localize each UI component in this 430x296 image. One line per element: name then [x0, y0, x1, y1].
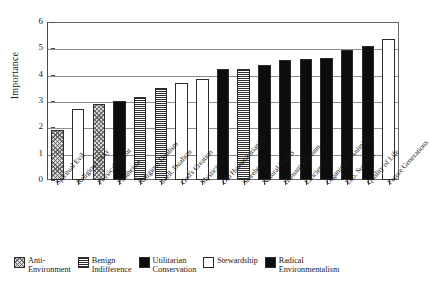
legend-swatch-icon: [78, 257, 89, 268]
legend-item[interactable]: Anti-Environment: [14, 256, 71, 275]
legend-swatch-icon: [203, 257, 214, 268]
y-axis-tick-label: 4: [13, 70, 43, 79]
y-axis-tick-label: 3: [13, 96, 43, 105]
legend-item[interactable]: Stewardship: [203, 256, 257, 268]
legend-label: Stewardship: [217, 256, 257, 265]
legend-label: Anti-Environment: [28, 256, 71, 275]
legend-item[interactable]: RadicalEnvironmentalism: [265, 256, 340, 275]
legend-label: BenignIndifference: [92, 256, 132, 275]
legend-label: RadicalEnvironmentalism: [279, 256, 340, 275]
legend-swatch-icon: [139, 257, 150, 268]
y-axis-tick-labels: 0123456: [9, 22, 43, 180]
y-axis-tick-label: 2: [13, 122, 43, 131]
y-axis-tick-label: 1: [13, 149, 43, 158]
x-axis-category-labels: Spiritual EvilReligious DutyPhysical Thr…: [0, 181, 424, 243]
legend-item[interactable]: BenignIndifference: [78, 256, 132, 275]
chart-legend: Anti-EnvironmentBenignIndifferenceUtilit…: [14, 256, 414, 286]
legend-item[interactable]: UtilitarianConservation: [139, 256, 197, 275]
legend-swatch-icon: [265, 257, 276, 268]
legend-swatch-icon: [14, 257, 25, 268]
y-axis-tick-label: 5: [13, 43, 43, 52]
y-axis-tick-label: 6: [13, 17, 43, 26]
legend-label: UtilitarianConservation: [153, 256, 197, 275]
